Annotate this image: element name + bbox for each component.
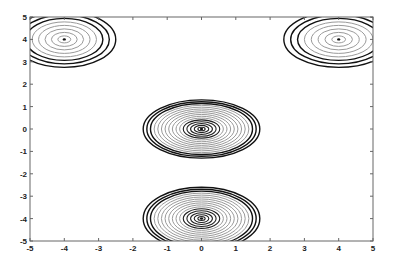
contour-chart: -5-4-3-2-1012345 543210-1-2-3-4-5: [0, 0, 394, 266]
x-tick-label: 0: [199, 244, 204, 253]
peak-marker: [200, 128, 203, 130]
peak-marker: [337, 38, 340, 40]
x-tick-label: -4: [61, 244, 69, 253]
y-tick-label: 3: [23, 58, 28, 67]
x-tick-label: -1: [164, 244, 172, 253]
x-tick-label: -2: [129, 244, 137, 253]
y-tick-label: -5: [20, 237, 28, 246]
x-tick-label: 2: [268, 244, 273, 253]
y-tick-label: -1: [20, 147, 28, 156]
y-tick-label: 2: [23, 80, 28, 89]
y-tick-label: 4: [23, 35, 28, 44]
y-tick-label: 1: [23, 103, 28, 112]
x-tick-label: -3: [95, 244, 103, 253]
x-tick-label: 3: [302, 244, 307, 253]
contour-peak-center: [143, 100, 260, 158]
peak-marker: [200, 217, 203, 219]
y-tick-label: 0: [23, 125, 28, 134]
y-tick-label: -3: [20, 192, 28, 201]
contour-lines: [13, 11, 394, 250]
x-tick-label: -5: [26, 244, 34, 253]
y-tick-label: 5: [23, 13, 28, 22]
y-tick-label: -2: [20, 170, 28, 179]
x-tick-label: 4: [336, 244, 341, 253]
x-tick-label: 5: [371, 244, 376, 253]
x-tick-label: 1: [234, 244, 239, 253]
peak-marker: [63, 38, 66, 40]
y-tick-label: -4: [20, 215, 28, 224]
